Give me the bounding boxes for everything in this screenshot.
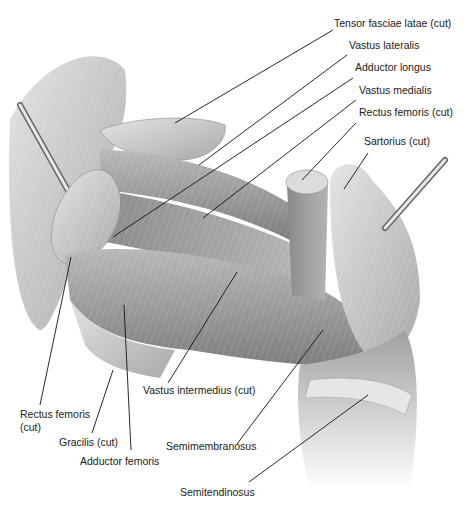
- anatomy-illustration: [0, 0, 471, 511]
- retractor-right: [385, 160, 445, 228]
- leader-line-tensor-fasciae-latae: [175, 30, 333, 123]
- label-adductor-longus: Adductor longus: [355, 61, 431, 74]
- leader-line-gracilis: [92, 370, 113, 433]
- label-rectus-femoris-cut-left: Rectus femoris (cut): [20, 408, 90, 434]
- label-adductor-femoris: Adductor femoris: [80, 455, 159, 468]
- label-sartorius: Sartorius (cut): [364, 135, 430, 148]
- rectus-femoris-right-muscle: [286, 170, 328, 300]
- label-semimembranosus: Semimembranosus: [166, 440, 256, 453]
- label-tensor-fasciae-latae: Tensor fasciae latae (cut): [334, 17, 451, 30]
- leader-line-vastus-lateralis: [199, 55, 347, 165]
- label-semitendinosus: Semitendinosus: [180, 486, 255, 499]
- label-vastus-lateralis: Vastus lateralis: [349, 39, 419, 52]
- label-gracilis: Gracilis (cut): [59, 436, 118, 449]
- label-rectus-femoris-cut-right: Rectus femoris (cut): [359, 106, 453, 119]
- label-vastus-medialis: Vastus medialis: [359, 84, 432, 97]
- label-vastus-intermedius: Vastus intermedius (cut): [143, 384, 255, 397]
